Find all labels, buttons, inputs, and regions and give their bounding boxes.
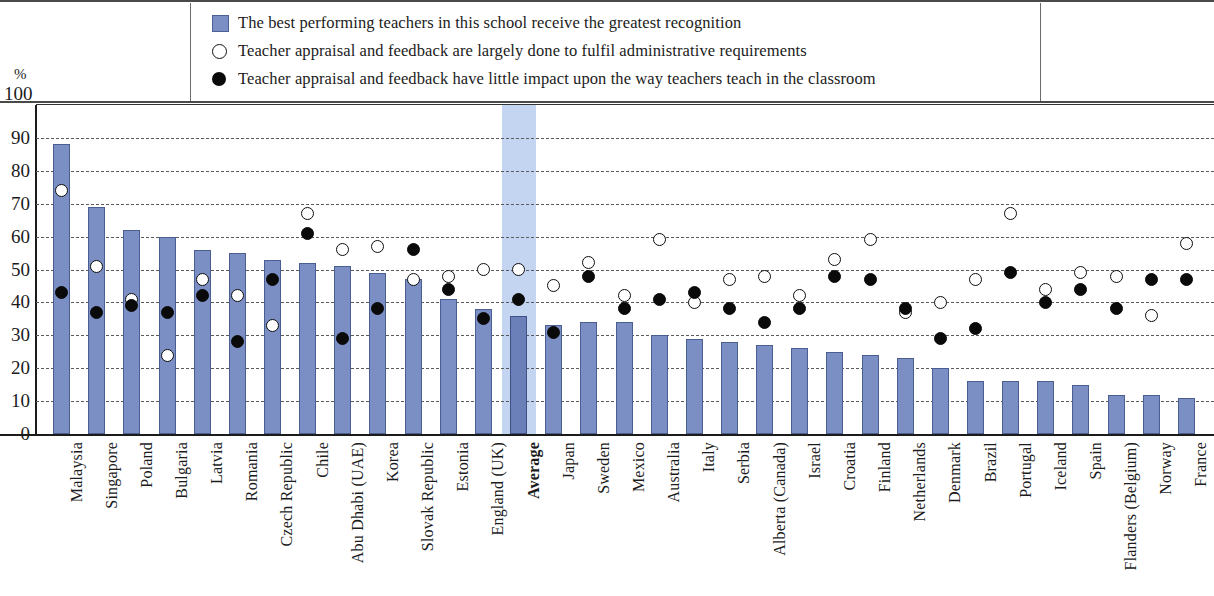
legend-label-bar: The best performing teachers in this sch… xyxy=(238,13,741,33)
x-label-croatia: Croatia xyxy=(841,442,859,491)
bar-chile xyxy=(299,263,316,434)
legend-rule xyxy=(0,101,1214,103)
open-circle-icon xyxy=(212,44,238,59)
filled-marker-france xyxy=(1180,273,1193,286)
y-tick-90: 90 xyxy=(0,128,30,147)
gridline-50 xyxy=(36,270,1214,271)
x-label-portugal: Portugal xyxy=(1017,442,1035,498)
open-marker-japan xyxy=(547,279,560,292)
bar-denmark xyxy=(932,368,949,434)
open-marker-czech-republic xyxy=(266,319,279,332)
bar-portugal xyxy=(1002,381,1019,434)
filled-marker-singapore xyxy=(90,306,103,319)
x-label-sweden: Sweden xyxy=(595,442,613,494)
bar-norway xyxy=(1143,395,1160,434)
bar-iceland xyxy=(1037,381,1054,434)
open-marker-australia xyxy=(653,233,666,246)
open-marker-portugal xyxy=(1004,207,1017,220)
y-tick-20: 20 xyxy=(0,358,30,377)
x-label-abu-dhabi-uae-: Abu Dhabi (UAE) xyxy=(349,442,367,563)
legend-divider-right xyxy=(1040,3,1041,101)
x-label-finland: Finland xyxy=(876,442,894,492)
filled-marker-japan xyxy=(547,326,560,339)
filled-marker-portugal xyxy=(1004,266,1017,279)
open-marker-korea xyxy=(371,240,384,253)
x-label-singapore: Singapore xyxy=(103,442,121,509)
x-label-iceland: Iceland xyxy=(1052,442,1070,490)
open-marker-denmark xyxy=(934,296,947,309)
legend-item-filled: Teacher appraisal and feedback have litt… xyxy=(212,65,1040,93)
open-marker-spain xyxy=(1074,266,1087,279)
filled-marker-italy xyxy=(688,286,701,299)
open-marker-chile xyxy=(301,207,314,220)
open-marker-bulgaria xyxy=(161,349,174,362)
legend-item-bar: The best performing teachers in this sch… xyxy=(212,9,1040,37)
x-label-norway: Norway xyxy=(1157,442,1175,495)
filled-marker-denmark xyxy=(934,332,947,345)
bar-croatia xyxy=(826,352,843,434)
open-marker-iceland xyxy=(1039,283,1052,296)
gridline-90 xyxy=(36,138,1214,139)
open-marker-brazil xyxy=(969,273,982,286)
filled-marker-slovak-republic xyxy=(407,243,420,256)
open-marker-england-uk- xyxy=(477,263,490,276)
filled-marker-latvia xyxy=(196,289,209,302)
plot-area xyxy=(36,105,1214,434)
bar-poland xyxy=(123,230,140,434)
x-label-japan: Japan xyxy=(560,442,578,479)
bar-england-uk- xyxy=(475,309,492,434)
bar-slovak-republic xyxy=(405,279,422,434)
x-label-israel: Israel xyxy=(806,442,824,479)
legend-label-filled: Teacher appraisal and feedback have litt… xyxy=(238,69,876,89)
bar-australia xyxy=(651,335,668,434)
legend-item-open: Teacher appraisal and feedback are large… xyxy=(212,37,1040,65)
y-tick-50: 50 xyxy=(0,260,30,279)
filled-marker-australia xyxy=(653,293,666,306)
gridline-80 xyxy=(36,171,1214,172)
filled-marker-spain xyxy=(1074,283,1087,296)
filled-marker-mexico xyxy=(618,302,631,315)
open-marker-israel xyxy=(793,289,806,302)
open-marker-average xyxy=(512,263,525,276)
filled-marker-bulgaria xyxy=(161,306,174,319)
bar-finland xyxy=(862,355,879,434)
open-marker-norway xyxy=(1145,309,1158,322)
x-label-brazil: Brazil xyxy=(982,442,1000,482)
legend-label-open: Teacher appraisal and feedback are large… xyxy=(238,41,807,61)
open-marker-latvia xyxy=(196,273,209,286)
gridline-60 xyxy=(36,237,1214,238)
axis-unit-label: % xyxy=(14,66,27,83)
x-label-chile: Chile xyxy=(314,442,332,478)
x-label-spain: Spain xyxy=(1087,442,1105,479)
bar-israel xyxy=(791,348,808,434)
open-marker-singapore xyxy=(90,260,103,273)
open-marker-croatia xyxy=(828,253,841,266)
filled-marker-chile xyxy=(301,227,314,240)
filled-marker-brazil xyxy=(969,322,982,335)
x-label-malaysia: Malaysia xyxy=(68,442,86,502)
x-label-romania: Romania xyxy=(243,442,261,501)
bar-mexico xyxy=(616,322,633,434)
bar-spain xyxy=(1072,385,1089,434)
x-label-france: France xyxy=(1192,442,1210,487)
open-marker-estonia xyxy=(442,270,455,283)
filled-marker-croatia xyxy=(828,270,841,283)
bar-netherlands xyxy=(897,358,914,434)
x-label-alberta-canada-: Alberta (Canada) xyxy=(771,442,789,556)
y-tick-40: 40 xyxy=(0,292,30,311)
bar-korea xyxy=(369,273,386,434)
x-label-mexico: Mexico xyxy=(630,442,648,492)
filled-marker-alberta-canada- xyxy=(758,316,771,329)
filled-marker-sweden xyxy=(582,270,595,283)
filled-marker-flanders-belgium- xyxy=(1110,302,1123,315)
x-label-estonia: Estonia xyxy=(454,442,472,491)
filled-marker-average xyxy=(512,293,525,306)
y-tick-0: 0 xyxy=(0,424,30,443)
filled-marker-israel xyxy=(793,302,806,315)
open-marker-mexico xyxy=(618,289,631,302)
bar-bulgaria xyxy=(159,237,176,434)
x-axis-labels: MalaysiaSingaporePolandBulgariaLatviaRom… xyxy=(36,436,1214,596)
bar-singapore xyxy=(88,207,105,434)
x-label-slovak-republic: Slovak Republic xyxy=(419,442,437,551)
open-marker-sweden xyxy=(582,256,595,269)
